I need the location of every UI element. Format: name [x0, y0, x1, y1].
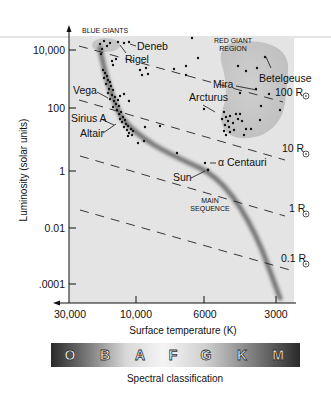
y-tick-label: 10,000 [33, 44, 65, 56]
blue-giants-label: BLUE GIANTS [82, 27, 129, 34]
svg-text:100 R: 100 R [275, 86, 303, 98]
x-tick-label: 3000 [264, 308, 288, 320]
spectral-classification-title: Spectral classification [127, 373, 223, 384]
hr-diagram: 10,000 100 1 0.01 .0001 30,000 10,000 60… [0, 0, 331, 394]
spectral-class-b: B [100, 347, 110, 363]
y-tick-label: 1 [59, 165, 65, 177]
x-tick-label: 10,000 [120, 308, 152, 320]
star-label-sun: Sun [173, 171, 192, 183]
x-tick-label: 30,000 [54, 308, 86, 320]
star-label-deneb: Deneb [137, 40, 168, 52]
y-tick-label: 0.01 [45, 222, 66, 234]
star-label-rigel: Rigel [125, 53, 149, 65]
svg-text:0.1 R: 0.1 R [281, 252, 307, 264]
spectral-class-o: O [65, 347, 76, 363]
blue-giant-region [92, 38, 120, 52]
red-giant-label-2: REGION [219, 45, 247, 52]
spectral-class-g: G [201, 347, 212, 363]
star-label-alpha-centauri: α Centauri [218, 156, 267, 168]
star-label-vega: Vega [73, 84, 97, 96]
y-tick-label: 100 [47, 102, 65, 114]
main-sequence-label-2: SEQUENCE [190, 205, 230, 213]
main-sequence-label: MAIN [201, 197, 219, 204]
x-axis-title: Surface temperature (K) [129, 325, 236, 336]
red-giant-label: RED GIANT [214, 37, 253, 44]
star-label-mira: Mira [213, 78, 234, 90]
star-label-arcturus: Arcturus [189, 91, 228, 103]
star-label-altair: Altair [80, 127, 104, 139]
y-tick-label: .0001 [39, 278, 65, 290]
star-label-betelgeuse: Betelgeuse [259, 72, 312, 84]
x-tick-label: 6000 [193, 308, 217, 320]
x-axis-arrow-icon [53, 301, 60, 306]
star-label-sirius: Sirius A [71, 112, 107, 124]
spectral-class-a: A [135, 347, 145, 363]
spectral-class-m: M [272, 347, 284, 363]
radius-label-100: 100 R [275, 86, 309, 99]
y-axis-title: Luminosity (solar units) [18, 119, 29, 222]
spectral-class-k: K [237, 347, 247, 363]
y-axis-arrow-icon [67, 25, 72, 32]
svg-text:10 R: 10 R [282, 142, 305, 154]
spectral-class-f: F [169, 347, 178, 363]
